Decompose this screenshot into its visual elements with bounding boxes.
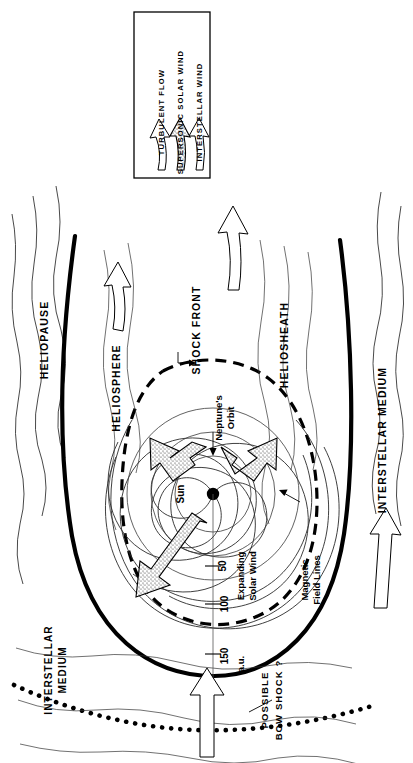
scale-unit-label: a.u. bbox=[235, 656, 246, 672]
scale-tick-50: 50 bbox=[217, 560, 228, 572]
legend-label-turbulent-flow: TURBULENT FLOW bbox=[157, 69, 166, 155]
heliosphere-diagram: HELIOPAUSE HELIOSPHERE SHOCK FRONT HELIO… bbox=[0, 0, 413, 763]
turbulent-flow-arrow-top-center bbox=[218, 206, 248, 290]
label-neptunes-orbit-line2: Orbit bbox=[225, 406, 236, 430]
label-shock-front: SHOCK FRONT bbox=[190, 285, 202, 374]
label-expanding-solar-wind-line2: Solar Wind bbox=[247, 551, 258, 601]
label-heliopause: HELIOPAUSE bbox=[38, 301, 50, 379]
scale-tick-100: 100 bbox=[219, 595, 230, 612]
neptune-leader-arrowhead bbox=[209, 448, 216, 456]
magnetic-field-leader-arrowhead bbox=[279, 490, 288, 496]
scale-tick-150: 150 bbox=[219, 647, 230, 664]
interstellar-field-lines-left bbox=[12, 186, 66, 584]
label-interstellar-medium-right: INTERSTELLAR MEDIUM bbox=[376, 367, 388, 513]
label-magnetic-field-lines-line1: Magnetic bbox=[299, 559, 310, 600]
label-interstellar-medium-left-line1: INTERSTELLAR bbox=[43, 625, 54, 714]
legend-box: INTERSTELLAR WIND SUPERSONIC SOLAR WIND … bbox=[134, 12, 210, 178]
interstellar-wind-arrow-right bbox=[370, 508, 401, 608]
label-magnetic-field-lines-line2: Field Lines bbox=[311, 555, 322, 605]
label-expanding-solar-wind-line1: Expanding bbox=[235, 552, 246, 601]
interstellar-wind-arrow-bottom bbox=[190, 668, 224, 757]
label-heliosphere: HELIOSPHERE bbox=[110, 344, 122, 431]
solar-wind-arrow-lower-left bbox=[136, 513, 207, 597]
legend-label-interstellar-wind: INTERSTELLAR WIND bbox=[195, 63, 204, 162]
heliopause-curve bbox=[62, 236, 351, 676]
label-possible-bow-shock-line2: BOW SHOCK ? bbox=[273, 660, 284, 741]
figure-canvas: HELIOPAUSE HELIOSPHERE SHOCK FRONT HELIO… bbox=[0, 0, 413, 763]
label-heliosheath: HELIOSHEATH bbox=[278, 302, 290, 389]
legend-label-supersonic-solar-wind: SUPERSONIC SOLAR WIND bbox=[176, 50, 185, 174]
label-sun: Sun bbox=[175, 485, 186, 504]
label-possible-bow-shock-line1: POSSIBLE bbox=[259, 672, 270, 729]
label-interstellar-medium-left-line2: MEDIUM bbox=[57, 646, 68, 693]
label-neptunes-orbit-line1: Neptune's bbox=[213, 395, 224, 441]
